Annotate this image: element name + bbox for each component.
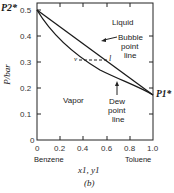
y-tick-0.3: 0.3 bbox=[20, 58, 31, 67]
figure-caption: (b) bbox=[84, 179, 95, 188]
y-ticks bbox=[37, 10, 153, 114]
bubble-label-3: line bbox=[124, 51, 136, 60]
x-axis-label: x1, y1 bbox=[78, 166, 100, 175]
liquid-region-label: Liquid bbox=[112, 18, 133, 27]
dew-label-2: point bbox=[108, 106, 125, 115]
bubble-label-1: Bubble bbox=[118, 33, 143, 42]
bubble-label-2: point bbox=[121, 42, 138, 51]
x-tick-0: 0 bbox=[35, 144, 39, 153]
y-tick-0.1: 0.1 bbox=[20, 110, 31, 119]
p1star-label: P1* bbox=[156, 90, 171, 99]
x-tick-0.2: 0.2 bbox=[54, 144, 65, 153]
dew-label-3: line bbox=[112, 115, 124, 124]
dew-arrowhead bbox=[115, 81, 119, 86]
benzene-label: Benzene bbox=[34, 155, 64, 164]
y-tick-0.2: 0.2 bbox=[20, 84, 31, 93]
toluene-label: Toluene bbox=[125, 155, 151, 164]
dew-label-1: Dew bbox=[109, 97, 125, 106]
y-tick-0: 0 bbox=[30, 136, 34, 145]
bubble-arrowhead bbox=[101, 38, 106, 42]
y-axis-label: P/bar bbox=[3, 64, 12, 85]
y-tick-0.5: 0.5 bbox=[20, 6, 31, 15]
tie-liquid-marker: l bbox=[109, 54, 111, 63]
y-tick-0.4: 0.4 bbox=[20, 32, 31, 41]
tie-vapor-marker: v bbox=[74, 55, 77, 64]
vapor-region-label: Vapor bbox=[63, 96, 84, 105]
x-tick-0.6: 0.6 bbox=[101, 144, 112, 153]
x-tick-0.8: 0.8 bbox=[124, 144, 135, 153]
x-tick-0.4: 0.4 bbox=[77, 144, 88, 153]
p2star-label: P2* bbox=[1, 3, 17, 12]
x-tick-1.0: 1.0 bbox=[147, 144, 158, 153]
